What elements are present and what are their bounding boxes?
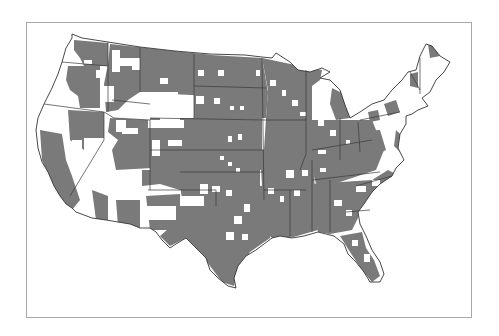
us-county-map <box>0 0 499 336</box>
